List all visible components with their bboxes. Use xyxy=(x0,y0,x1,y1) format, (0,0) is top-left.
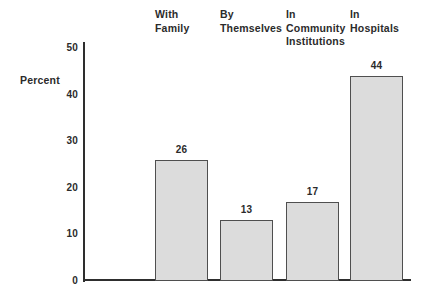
y-tick-label-20: 20 xyxy=(38,181,78,195)
y-axis-line xyxy=(83,42,85,282)
bar-chart: Percent 0102030405026With Family13By The… xyxy=(0,0,431,299)
y-tick-label-30: 30 xyxy=(38,134,78,148)
category-label-with-family: With Family xyxy=(155,8,225,35)
bar-value-in-community-institutions: 17 xyxy=(276,185,349,199)
y-tick-label-10: 10 xyxy=(38,227,78,241)
y-tick-label-50: 50 xyxy=(38,41,78,55)
y-tick-label-0: 0 xyxy=(38,274,78,288)
y-tick-label-40: 40 xyxy=(38,88,78,102)
bar-with-family xyxy=(155,160,208,281)
y-axis-label: Percent xyxy=(20,74,60,86)
bar-value-with-family: 26 xyxy=(145,143,218,157)
bar-by-themselves xyxy=(220,220,273,281)
bar-in-hospitals xyxy=(350,76,403,281)
category-label-in-community-institutions: In Community Institutions xyxy=(286,8,356,49)
bar-value-by-themselves: 13 xyxy=(210,203,283,217)
bar-in-community-institutions xyxy=(286,202,339,281)
category-label-in-hospitals: In Hospitals xyxy=(350,8,420,35)
category-label-by-themselves: By Themselves xyxy=(220,8,290,35)
bar-value-in-hospitals: 44 xyxy=(340,59,413,73)
